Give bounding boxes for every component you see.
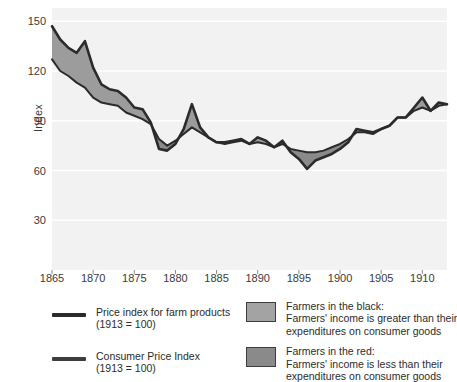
legend-text-line1: Price index for farm products: [96, 306, 242, 318]
legend-line-swatch-cpi: [52, 357, 86, 361]
chart-legend: Price index for farm products (1913 = 10…: [0, 302, 457, 372]
legend-line-swatch-farm-products: [52, 313, 86, 317]
legend-column-fills: Farmers in the black: Farmers' income is…: [246, 302, 457, 382]
legend-text-line2: (1913 = 100): [96, 362, 242, 374]
legend-text-line2: (1913 = 100): [96, 318, 242, 330]
legend-text-line2: Farmers' income is greater than their: [286, 312, 457, 324]
legend-text-line2: Farmers' income is less than their: [286, 358, 457, 370]
legend-item-in-the-black: Farmers in the black: Farmers' income is…: [246, 300, 457, 337]
legend-text-line3: expenditures on consumer goods: [286, 325, 457, 337]
legend-text-line1: Farmers in the red:: [286, 345, 457, 357]
legend-label-cpi: Consumer Price Index (1913 = 100): [52, 348, 242, 375]
chart-plot-area: [0, 0, 457, 300]
legend-label-in-the-red: Farmers in the red: Farmers' income is l…: [246, 345, 457, 382]
legend-text-line1: Consumer Price Index: [96, 350, 242, 362]
legend-fill-swatch-red: [246, 347, 276, 367]
plot-background: [52, 8, 447, 270]
legend-fill-swatch-black: [246, 302, 276, 322]
legend-text-line1: Farmers in the black:: [286, 300, 457, 312]
legend-text-line3: expenditures on consumer goods: [286, 370, 457, 382]
legend-column-series: Price index for farm products (1913 = 10…: [52, 302, 242, 378]
legend-item-cpi: Consumer Price Index (1913 = 100): [52, 348, 242, 378]
legend-item-farm-products: Price index for farm products (1913 = 10…: [52, 304, 242, 334]
legend-item-in-the-red: Farmers in the red: Farmers' income is l…: [246, 345, 457, 382]
legend-label-farm-products: Price index for farm products (1913 = 10…: [52, 304, 242, 331]
legend-label-in-the-black: Farmers in the black: Farmers' income is…: [246, 300, 457, 337]
